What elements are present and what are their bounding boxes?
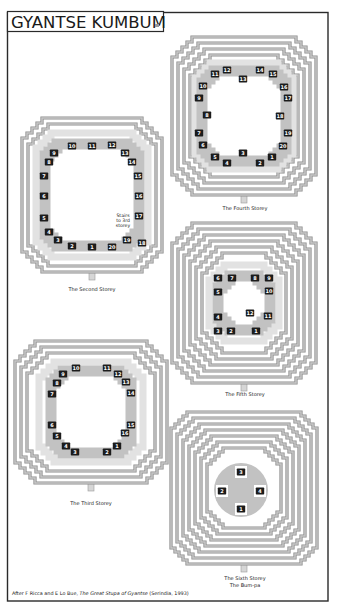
chapel-number: 11 xyxy=(104,365,111,371)
chapel-number: 5 xyxy=(216,289,220,295)
chapel-number: 14 xyxy=(129,159,136,165)
chapel-label: 16 xyxy=(135,193,143,200)
chapel-number: 4 xyxy=(258,488,262,494)
chapel-label: 15 xyxy=(269,71,277,78)
chapel-label: 10 xyxy=(199,83,207,90)
chapel-number: 12 xyxy=(115,371,122,377)
plan-fifth-storey: 678910541211321 xyxy=(172,223,316,391)
chapel-number: 10 xyxy=(73,365,80,371)
kumbum-floor-plans: GYANTSE KUMBUM 1011121314151617181920123… xyxy=(0,0,337,611)
chapel-label: 20 xyxy=(108,244,116,251)
chapel-number: 12 xyxy=(109,142,116,148)
chapel-number: 7 xyxy=(50,391,54,397)
chapel-label: 10 xyxy=(68,143,76,150)
chapel-number: 9 xyxy=(61,371,65,377)
chapel-number: 14 xyxy=(257,67,264,73)
chapel-label: 6 xyxy=(48,422,56,429)
chapel-number: 8 xyxy=(205,112,209,118)
chapel-number: 6 xyxy=(50,422,54,428)
chapel-number: 9 xyxy=(52,150,56,156)
chapel-number: 4 xyxy=(64,443,68,449)
chapel-label: 19 xyxy=(284,130,292,137)
chapel-number: 3 xyxy=(56,237,60,243)
chapel-label: 14 xyxy=(127,390,135,397)
source-credit: After F Ricca and E Lo Bue, The Great St… xyxy=(12,590,189,597)
chapel-label: 9 xyxy=(265,275,273,282)
chapel-number: 2 xyxy=(258,160,262,166)
map-page: GYANTSE KUMBUM 1011121314151617181920123… xyxy=(0,0,337,611)
chapel-number: 10 xyxy=(69,143,76,149)
chapel-number: 11 xyxy=(212,71,219,77)
chapel-label: 17 xyxy=(135,213,143,220)
chapel-label: 10 xyxy=(265,288,273,295)
chapel-number: 18 xyxy=(277,113,284,119)
caption-fourth-storey: The Fourth Storey xyxy=(222,205,268,212)
chapel-number: 1 xyxy=(254,328,258,334)
caption-second-storey: The Second Storey xyxy=(67,286,115,293)
chapel-label: 13 xyxy=(122,379,130,386)
chapel-number: 3 xyxy=(241,150,245,156)
chapel-number: 4 xyxy=(47,229,51,235)
plan-fourth-storey: 1112131415161718192012345678910 xyxy=(172,37,316,203)
chapel-label: 4 xyxy=(223,160,231,167)
chapel-label: 7 xyxy=(228,275,236,282)
plan-sixth-storey: 3241 xyxy=(171,412,317,572)
chapel-number: 5 xyxy=(42,215,46,221)
chapel-number: 1 xyxy=(90,244,94,250)
chapel-label: 18 xyxy=(138,240,146,247)
map-code-mark-icon xyxy=(155,24,159,27)
chapel-number: 4 xyxy=(216,314,220,320)
chapel-number: 11 xyxy=(89,143,96,149)
credit-book-title: The Great Stupa of Gyantse xyxy=(80,590,148,597)
chapel-number: 19 xyxy=(285,130,292,136)
chapel-number: 6 xyxy=(201,142,205,148)
chapel-number: 3 xyxy=(73,449,77,455)
chapel-number: 3 xyxy=(216,328,220,334)
chapel-label: 12 xyxy=(114,371,122,378)
chapel-label: 18 xyxy=(276,113,284,120)
chapel-number: 2 xyxy=(105,449,109,455)
caption-sixth-storey: The Sixth Storey xyxy=(223,575,265,582)
chapel-number: 7 xyxy=(230,275,234,281)
chapel-number: 4 xyxy=(225,160,229,166)
chapel-number: 8 xyxy=(47,159,51,165)
chapel-number: 5 xyxy=(213,154,217,160)
chapel-number: 6 xyxy=(42,193,46,199)
chapel-label: 1 xyxy=(237,506,245,513)
chapel-label: 4 xyxy=(214,314,222,321)
chapel-label: 5 xyxy=(40,215,48,222)
chapel-label: 11 xyxy=(88,143,96,150)
chapel-number: 17 xyxy=(136,213,143,219)
chapel-number: 10 xyxy=(266,288,273,294)
chapel-label: 19 xyxy=(123,237,131,244)
chapel-number: 20 xyxy=(280,143,287,149)
chapel-label: 16 xyxy=(121,430,129,437)
chapel-number: 8 xyxy=(55,380,59,386)
chapel-label: 5 xyxy=(53,433,61,440)
chapel-number: 15 xyxy=(135,173,142,179)
chapel-number: 12 xyxy=(224,67,231,73)
chapel-label: 3 xyxy=(214,328,222,335)
chapel-number: 13 xyxy=(240,76,247,82)
chapel-label: 1 xyxy=(252,328,260,335)
chapel-label: 15 xyxy=(134,173,142,180)
chapel-number: 20 xyxy=(109,244,116,250)
chapel-label: 17 xyxy=(284,95,292,102)
chapel-label: 14 xyxy=(256,67,264,74)
chapel-number: 1 xyxy=(270,154,274,160)
chapel-label: 7 xyxy=(195,130,203,137)
chapel-number: 15 xyxy=(128,422,135,428)
chapel-label: 3 xyxy=(54,237,62,244)
chapel-number: 1 xyxy=(239,506,243,512)
chapel-number: 10 xyxy=(200,83,207,89)
stairs-note-line-3: storey xyxy=(116,223,131,228)
chapel-number: 15 xyxy=(270,71,277,77)
chapel-label: 11 xyxy=(211,71,219,78)
caption-third-storey: The Third Storey xyxy=(69,500,111,507)
chapel-number: 9 xyxy=(197,95,201,101)
chapel-label: 8 xyxy=(251,275,259,282)
chapel-label: 15 xyxy=(127,422,135,429)
plan-third-storey: 10111213141516123456789 xyxy=(15,341,167,491)
chapel-label: 2 xyxy=(218,488,226,495)
chapel-label: 2 xyxy=(227,328,235,335)
